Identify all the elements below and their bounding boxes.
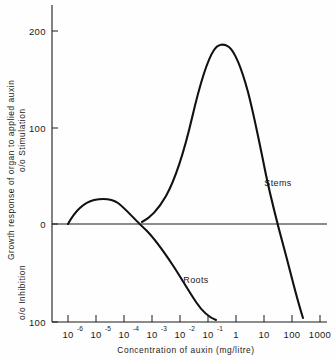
x-tick-labels: 10 -6 10 -5 10 -4 10 -3 10 -2 10 -1 1 10… xyxy=(62,325,331,340)
x-tick-label-1000: 1000 xyxy=(309,329,331,340)
x-tick-label-100: 100 xyxy=(284,329,301,340)
x-tick-label-1e-6: 10 xyxy=(62,329,73,340)
x-tick-exponent-1e-3: -3 xyxy=(161,325,167,332)
series-label-stems: Stems xyxy=(264,178,292,188)
y-axis-title-main: Growth response of organ to applied auxi… xyxy=(6,80,16,260)
x-tick-exponent-1e-4: -4 xyxy=(133,325,139,332)
x-tick-label-1: 1 xyxy=(233,329,239,340)
x-tick-label-10: 10 xyxy=(258,329,269,340)
y-tick-label-200: 200 xyxy=(29,26,46,37)
x-tick-label-1e-3: 10 xyxy=(146,329,157,340)
x-tick-label-1e-4: 10 xyxy=(118,329,129,340)
y-tick-label-100: 100 xyxy=(29,123,46,134)
chart-canvas: 200 100 0 100 10 -6 10 -5 10 -4 10 -3 10… xyxy=(0,0,334,362)
x-axis-title: Concentration of auxin (mg/litre) xyxy=(117,345,254,355)
curve-roots xyxy=(68,199,216,320)
y-tick-label-minus100: 100 xyxy=(29,317,46,328)
x-tick-label-1e-5: 10 xyxy=(90,329,101,340)
y-tick-label-0: 0 xyxy=(40,219,46,230)
y-axis-title-inhibition: o/o Inhibition xyxy=(17,265,27,320)
x-tick-label-1e-1: 10 xyxy=(202,329,213,340)
x-tick-exponent-1e-1: -1 xyxy=(217,325,223,332)
y-axis-title-stimulation: o/o Stimulation xyxy=(17,108,27,172)
x-tick-exponent-1e-2: -2 xyxy=(189,325,195,332)
y-tick-labels: 200 100 0 100 xyxy=(29,26,46,328)
auxin-dose-response-chart: 200 100 0 100 10 -6 10 -5 10 -4 10 -3 10… xyxy=(0,0,334,362)
x-tick-exponent-1e-5: -5 xyxy=(105,325,111,332)
x-tick-marks xyxy=(68,315,320,322)
x-tick-exponent-1e-6: -6 xyxy=(77,325,83,332)
x-tick-label-1e-2: 10 xyxy=(174,329,185,340)
series-label-roots: Roots xyxy=(183,275,209,285)
y-tick-marks xyxy=(52,31,58,322)
